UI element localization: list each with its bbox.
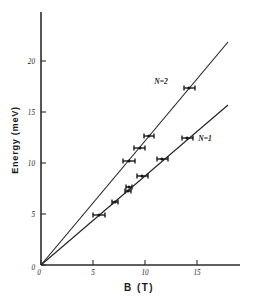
x-tick-label-0: 0 bbox=[37, 269, 41, 277]
data-point bbox=[184, 86, 195, 91]
series-label-n1: N=1 bbox=[197, 134, 212, 143]
x-tick-label-15: 15 bbox=[193, 269, 201, 277]
x-axis-title: B (T) bbox=[124, 282, 154, 293]
data-point bbox=[93, 213, 105, 218]
series-label-n2: N=2 bbox=[153, 77, 168, 86]
cyclotron-energy-vs-field-chart: 0 5 10 15 20 0 5 10 15 bbox=[0, 0, 253, 300]
y-tick-label-5: 5 bbox=[31, 211, 35, 219]
y-tick-label-10: 10 bbox=[28, 160, 36, 168]
y-axis-title: Energy (meV) bbox=[10, 106, 20, 174]
data-point bbox=[134, 146, 145, 151]
x-tick-label-5: 5 bbox=[91, 269, 95, 277]
figure-canvas: 0 5 10 15 20 0 5 10 15 bbox=[0, 0, 253, 300]
y-tick-label-20: 20 bbox=[28, 58, 36, 66]
y-tick-label-0: 0 bbox=[31, 264, 35, 272]
y-tick-label-15: 15 bbox=[28, 109, 36, 117]
series-line-n2 bbox=[41, 42, 228, 265]
x-tick-label-10: 10 bbox=[141, 269, 149, 277]
data-point bbox=[144, 134, 154, 139]
series-line-n1 bbox=[41, 105, 228, 265]
